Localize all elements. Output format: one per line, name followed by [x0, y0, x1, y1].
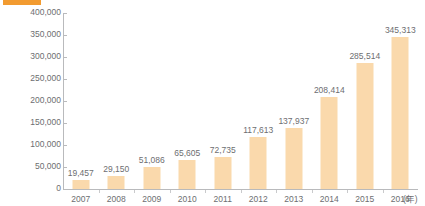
bar-chart: 19,45729,15051,08665,60572,735117,613137…	[0, 6, 425, 206]
bar-slot: 19,457	[63, 13, 99, 189]
y-axis-tick-label: 200,000	[7, 96, 61, 105]
y-axis-tick-label: 400,000	[7, 8, 61, 17]
bar-slot: 285,514	[347, 13, 383, 189]
x-axis-tick-label: 2009	[134, 194, 170, 205]
bar-value-label: 65,605	[174, 148, 200, 158]
bar[interactable]	[321, 97, 338, 189]
x-axis-tick	[383, 190, 384, 193]
chart-page: 19,45729,15051,08665,60572,735117,613137…	[0, 0, 425, 206]
x-axis-tick-label: 2015	[347, 194, 383, 205]
x-axis-tick-label: 2011	[205, 194, 241, 205]
bar-value-label: 72,735	[210, 145, 236, 155]
bar[interactable]	[214, 157, 231, 189]
bar-value-label: 285,514	[349, 51, 380, 61]
bar[interactable]	[250, 137, 267, 189]
bar-slot: 137,937	[276, 13, 312, 189]
y-axis-tick	[64, 167, 67, 168]
bar-slot: 51,086	[134, 13, 170, 189]
y-axis-tick-label: 300,000	[7, 52, 61, 61]
y-axis-tick	[64, 13, 67, 14]
bar-value-label: 51,086	[139, 155, 165, 165]
bar-series: 19,45729,15051,08665,60572,735117,613137…	[63, 13, 418, 189]
bar-value-label: 345,313	[385, 25, 416, 35]
bar[interactable]	[179, 160, 196, 189]
bar-slot: 117,613	[241, 13, 277, 189]
x-axis-tick-label: 2014	[312, 194, 348, 205]
x-axis-tick	[276, 190, 277, 193]
y-axis-tick-label: 0	[7, 184, 61, 193]
x-axis-tick-label: 2007	[63, 194, 99, 205]
x-axis-tick	[205, 190, 206, 193]
bar-slot: 65,605	[170, 13, 206, 189]
bar-value-label: 137,937	[278, 116, 309, 126]
bar-slot: 72,735	[205, 13, 241, 189]
x-axis-tick-label: 2012	[241, 194, 277, 205]
bar-slot: 29,150	[99, 13, 135, 189]
y-axis-tick	[64, 145, 67, 146]
y-axis-tick-label: 150,000	[7, 118, 61, 127]
bar-value-label: 29,150	[103, 164, 129, 174]
y-axis-tick	[64, 101, 67, 102]
y-axis-tick	[64, 35, 67, 36]
y-axis-tick	[64, 57, 67, 58]
bar-value-label: 117,613	[243, 125, 273, 135]
bar[interactable]	[356, 63, 373, 189]
x-axis-tick	[170, 190, 171, 193]
bar[interactable]	[143, 167, 160, 189]
y-axis-tick-label: 100,000	[7, 140, 61, 149]
y-axis-tick-label: 250,000	[7, 74, 61, 83]
y-axis-tick-label: 350,000	[7, 30, 61, 39]
x-axis-labels: 2007200820092010201120122013201420152016	[63, 194, 418, 206]
x-axis-tick	[312, 190, 313, 193]
x-axis-tick-label: 2010	[170, 194, 206, 205]
bar-value-label: 19,457	[68, 168, 94, 178]
bar-slot: 208,414	[312, 13, 348, 189]
header-accent-swatch	[3, 0, 41, 5]
bar[interactable]	[108, 176, 125, 189]
bar[interactable]	[392, 37, 409, 189]
bar-slot: 345,313	[383, 13, 419, 189]
x-axis-tick	[241, 190, 242, 193]
y-axis-tick	[64, 79, 67, 80]
bar-value-label: 208,414	[314, 85, 345, 95]
x-axis-tick-label: 2013	[276, 194, 312, 205]
bar[interactable]	[72, 180, 89, 189]
y-axis-tick-label: 50,000	[7, 162, 61, 171]
y-axis-tick	[64, 123, 67, 124]
x-axis-unit-label: (年)	[403, 194, 418, 205]
x-axis-tick	[99, 190, 100, 193]
bar[interactable]	[285, 128, 302, 189]
x-axis-tick	[134, 190, 135, 193]
x-axis-tick-label: 2008	[99, 194, 135, 205]
x-axis-tick	[347, 190, 348, 193]
